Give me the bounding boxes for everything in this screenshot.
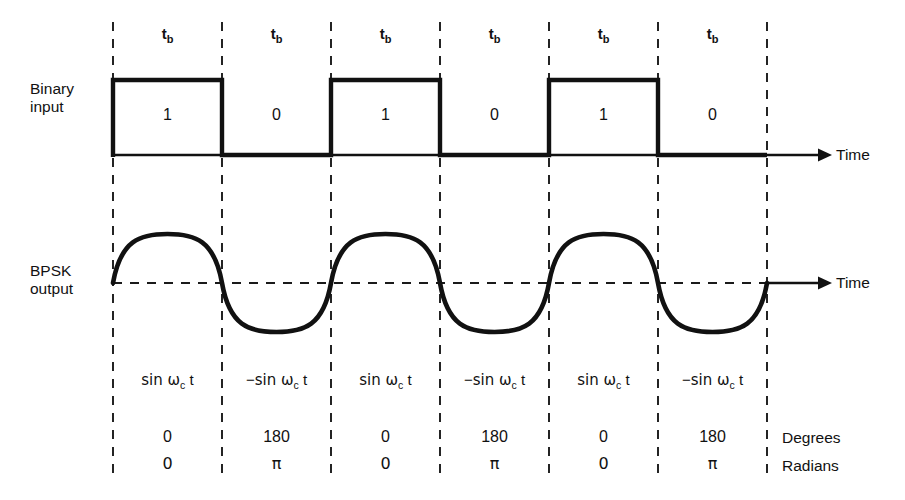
- binary-bit-value-3: 1: [381, 106, 390, 125]
- binary-input-waveform: [113, 80, 767, 157]
- phase-degrees-1: 0: [163, 428, 172, 447]
- binary-input-row-label: Binary input: [30, 80, 74, 117]
- phase-degrees-2: 180: [263, 428, 290, 447]
- binary-bit-value-1: 1: [163, 106, 172, 125]
- bit-period-label-4: tb: [489, 25, 501, 46]
- binary-input-row-label-line2: input: [30, 98, 74, 116]
- phase-degrees-6: 180: [699, 428, 726, 447]
- phase-expression-2: −sin ωc t: [246, 371, 307, 391]
- phase-expression-5: sin ωc t: [577, 371, 629, 391]
- bit-period-label-1: tb: [162, 25, 174, 46]
- phase-degrees-3: 0: [381, 428, 390, 447]
- phase-radians-2: π: [272, 455, 282, 474]
- binary-bit-value-4: 0: [490, 106, 499, 125]
- binary-input-row-label-line1: Binary: [30, 80, 74, 98]
- phase-expression-3: sin ωc t: [359, 371, 411, 391]
- bit-period-label-5: tb: [598, 25, 610, 46]
- phase-degrees-4: 180: [481, 428, 508, 447]
- bpsk-timing-diagram: [0, 0, 905, 500]
- degrees-row-label: Degrees: [782, 429, 841, 447]
- phase-expression-1: sin ωc t: [141, 371, 193, 391]
- phase-expression-6: −sin ωc t: [682, 371, 743, 391]
- bpsk-output-row-label: BPSK output: [30, 262, 73, 299]
- phase-radians-6: π: [708, 455, 718, 474]
- phase-radians-4: π: [490, 455, 500, 474]
- binary-time-axis-label: Time: [836, 146, 870, 164]
- radians-row-label: Radians: [782, 457, 839, 475]
- bpsk-time-axis-label: Time: [836, 274, 870, 292]
- phase-radians-3: 0: [380, 455, 390, 474]
- bit-period-label-6: tb: [707, 25, 719, 46]
- bpsk-output-row-label-line1: BPSK: [30, 262, 73, 280]
- phase-radians-1: 0: [162, 455, 172, 474]
- phase-degrees-5: 0: [599, 428, 608, 447]
- binary-bit-value-2: 0: [272, 106, 281, 125]
- phase-radians-5: 0: [598, 455, 608, 474]
- bit-period-label-2: tb: [271, 25, 283, 46]
- phase-expression-4: −sin ωc t: [464, 371, 525, 391]
- bit-period-label-3: tb: [380, 25, 392, 46]
- binary-bit-value-5: 1: [599, 106, 608, 125]
- binary-bit-value-6: 0: [708, 106, 717, 125]
- bpsk-output-row-label-line2: output: [30, 280, 73, 298]
